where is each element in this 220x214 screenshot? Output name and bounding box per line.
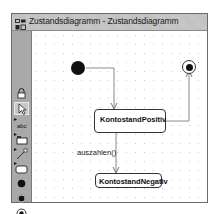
package-tool-icon[interactable] [14,132,29,145]
fork-state-tool-icon[interactable] [14,192,29,205]
diagram-canvas[interactable]: KontostandPositiv auszahlen() Kontostand… [32,31,205,200]
state-label: KontostandPositiv [100,115,166,124]
title-bar[interactable]: Zustandsdiagramm - Zustandsdiagramm [12,14,207,31]
state-kontostand-positiv[interactable]: KontostandPositiv [94,109,166,133]
select-pointer-icon[interactable] [14,102,29,115]
initial-state[interactable] [71,61,85,75]
diagram-window: Zustandsdiagramm - Zustandsdiagramm abc [11,13,208,203]
state-kontostand-negativ[interactable]: KontostandNegativ [95,173,162,188]
initial-state-tool-icon[interactable] [14,177,29,190]
lock-icon[interactable] [14,87,29,100]
state-tool-icon[interactable] [14,162,29,175]
text-tool-icon[interactable]: abc [14,117,29,130]
tool-palette: abc [12,31,32,202]
diagram-app-icon [15,16,26,27]
state-label: KontostandNegativ [99,177,168,186]
final-state-tool-icon[interactable] [14,207,29,214]
svg-text:abc: abc [17,123,27,129]
transition-tool-icon[interactable] [14,147,29,160]
final-state[interactable] [182,60,196,74]
transition-label-auszahlen[interactable]: auszahlen() [77,148,116,157]
window-title: Zustandsdiagramm - Zustandsdiagramm [29,16,179,26]
final-state-inner-icon [186,64,193,71]
